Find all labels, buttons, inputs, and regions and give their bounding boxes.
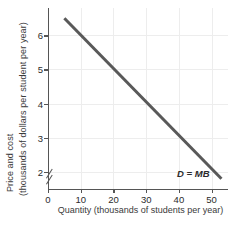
y-axis-title-line-2: (thousands of dollars per student per ye… bbox=[18, 22, 28, 196]
curve-label-d-mb: D = MB bbox=[177, 168, 209, 179]
x-tick-label: 30 bbox=[141, 194, 152, 205]
y-tick-label: 3 bbox=[38, 132, 43, 143]
x-tick-label: 10 bbox=[75, 194, 86, 205]
demand-curve-line bbox=[64, 18, 221, 179]
y-tick-label: 5 bbox=[38, 64, 43, 75]
y-axis-title-line-1: Price and cost bbox=[5, 134, 15, 192]
y-tick-label: 6 bbox=[38, 30, 43, 41]
x-tick-label-origin: 0 bbox=[45, 194, 50, 205]
demand-curve-svg bbox=[48, 8, 228, 190]
x-axis-title: Quantity (thousands of students per year… bbox=[48, 205, 233, 215]
y-tick-label: 4 bbox=[38, 98, 43, 109]
x-tick-label: 50 bbox=[206, 194, 217, 205]
y-tick-label: 2 bbox=[38, 166, 43, 177]
x-tick-label: 20 bbox=[108, 194, 119, 205]
y-axis-title: Price and cost (thousands of dollars per… bbox=[0, 0, 40, 190]
chart-figure: Price and cost (thousands of dollars per… bbox=[0, 0, 233, 225]
plot-area: 1020304050 23456 0 D = MB bbox=[48, 8, 228, 190]
x-tick-label: 40 bbox=[174, 194, 185, 205]
